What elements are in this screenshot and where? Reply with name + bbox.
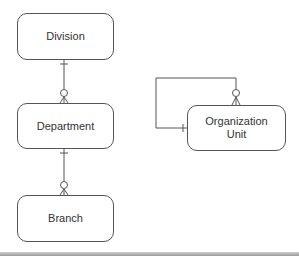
zero-circle-icon <box>61 182 68 189</box>
relationship-division-department <box>60 59 68 103</box>
er-diagram: Division Department Branch Organization … <box>0 0 299 256</box>
relationship-department-branch <box>60 148 68 195</box>
crowsfoot-icon <box>232 97 236 105</box>
entity-label-line1: Organization <box>205 115 267 128</box>
entity-label-line2: Unit <box>227 128 247 141</box>
zero-circle-icon <box>61 90 68 97</box>
entity-branch[interactable]: Branch <box>17 195 114 242</box>
entity-label: Department <box>37 120 94 133</box>
entity-organization-unit[interactable]: Organization Unit <box>187 105 286 151</box>
entity-department[interactable]: Department <box>17 103 114 149</box>
entity-division[interactable]: Division <box>17 13 114 60</box>
entity-label: Branch <box>48 212 83 225</box>
entity-label: Division <box>46 30 85 43</box>
zero-circle-icon <box>233 90 240 97</box>
bottom-divider <box>0 252 299 256</box>
